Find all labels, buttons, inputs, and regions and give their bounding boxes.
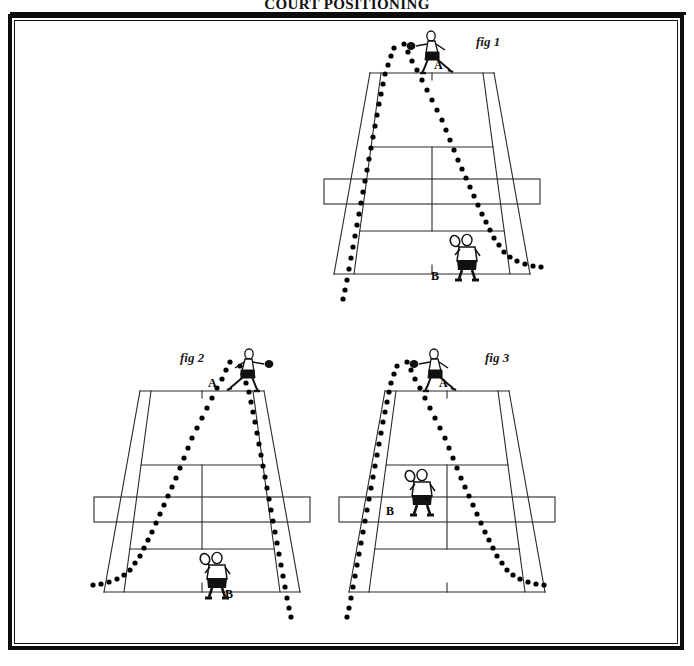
player-b-label: B [431, 269, 439, 284]
player-a-figure [220, 346, 282, 394]
player-a-label: A [208, 376, 217, 391]
player-a-figure [398, 28, 460, 76]
player-b-figure [442, 231, 488, 283]
player-a-label: A [434, 58, 443, 73]
player-b-label: B [386, 504, 394, 519]
court-diagram [357, 344, 587, 644]
figure-court-positioning-1: fig 1AB [342, 26, 572, 326]
player-a-figure [401, 346, 463, 394]
player-b-figure [397, 466, 443, 518]
figure-court-positioning-3: fig 3AB [357, 344, 587, 644]
figure-label: fig 1 [476, 34, 500, 50]
figure-court-positioning-2: fig 2AB [112, 344, 342, 644]
figure-label: fig 3 [485, 350, 509, 366]
player-a-label: A [439, 376, 448, 391]
figure-label: fig 2 [180, 350, 204, 366]
illustration-frame: fig 1AB fig 2AB fig 3AB [8, 14, 684, 650]
player-b-label: B [225, 587, 233, 602]
